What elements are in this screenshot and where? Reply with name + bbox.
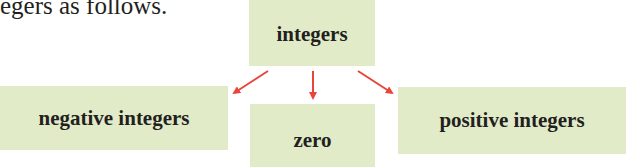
node-positive-integers: positive integers: [398, 87, 626, 154]
node-integers-label: integers: [276, 22, 347, 47]
arrow-to-positive-icon: [358, 71, 392, 93]
arrow-to-negative-icon: [234, 71, 268, 93]
intro-text: egers as follows.: [0, 0, 167, 21]
node-zero: zero: [250, 104, 375, 167]
node-zero-label: zero: [293, 128, 331, 153]
node-negative-integers: negative integers: [0, 86, 228, 150]
node-positive-integers-label: positive integers: [439, 108, 584, 133]
node-integers: integers: [249, 0, 375, 66]
node-negative-integers-label: negative integers: [38, 106, 189, 131]
